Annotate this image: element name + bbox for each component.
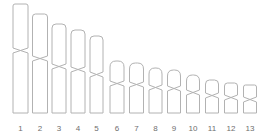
chromosome-2	[33, 14, 48, 113]
chromosome-label-7: 7	[134, 124, 139, 133]
chromosome-7	[130, 63, 144, 113]
idiogram-canvas: 12345678910111213	[0, 0, 268, 138]
chromosome-label-5: 5	[94, 124, 99, 133]
chromosome-label-1: 1	[18, 124, 23, 133]
chromosome-label-12: 12	[227, 124, 236, 133]
chromosome-5	[90, 36, 103, 113]
chromosome-label-11: 11	[208, 124, 217, 133]
chromosome-4	[71, 30, 85, 113]
chromosome-label-9: 9	[172, 124, 177, 133]
chromosome-8	[149, 68, 162, 113]
chromosome-layer	[13, 4, 257, 113]
chromosome-label-10: 10	[189, 124, 198, 133]
chromosome-1	[13, 4, 28, 113]
chromosome-12	[225, 83, 238, 113]
chromosome-label-layer: 12345678910111213	[18, 124, 255, 133]
chromosome-11	[206, 80, 219, 113]
chromosome-3	[52, 24, 66, 113]
chromosome-label-13: 13	[246, 124, 255, 133]
chromosome-9	[168, 70, 181, 113]
chromosome-label-4: 4	[76, 124, 81, 133]
chromosome-label-2: 2	[38, 124, 43, 133]
chromosome-label-8: 8	[153, 124, 158, 133]
chromosome-6	[110, 61, 124, 113]
chromosome-label-3: 3	[57, 124, 62, 133]
chromosome-13	[244, 85, 257, 113]
chromosome-10	[187, 75, 200, 113]
chromosome-idiogram-figure: 12345678910111213	[0, 0, 268, 138]
chromosome-label-6: 6	[115, 124, 120, 133]
